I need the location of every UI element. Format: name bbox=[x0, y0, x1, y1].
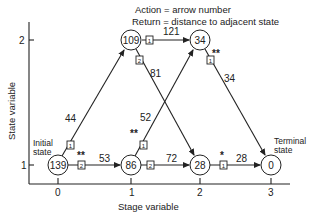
svg-text:109: 109 bbox=[123, 35, 140, 46]
action-box-86-28: 2 bbox=[147, 161, 154, 169]
svg-text:28: 28 bbox=[194, 160, 206, 171]
action-box-86-34: 1 bbox=[140, 141, 147, 149]
node-34: 34 bbox=[190, 30, 210, 50]
edge-34-0 bbox=[205, 49, 265, 155]
distance-34-0: 34 bbox=[224, 73, 236, 84]
x-tick-label-2: 2 bbox=[197, 187, 203, 198]
terminal-state-label-2: state bbox=[274, 145, 293, 155]
svg-text:0: 0 bbox=[268, 160, 274, 171]
optimal-marker-86-34: ** bbox=[130, 128, 138, 139]
distance-139-109: 44 bbox=[65, 113, 77, 124]
y-tick-label-1: 1 bbox=[21, 160, 27, 171]
y-tick-label-2: 2 bbox=[19, 35, 25, 46]
x-tick-label-1: 1 bbox=[129, 187, 135, 198]
distance-86-28: 72 bbox=[166, 153, 178, 164]
x-tick-label-0: 0 bbox=[55, 187, 61, 198]
action-box-28-0: 1 bbox=[220, 161, 227, 169]
edge-139-109 bbox=[62, 50, 124, 156]
node-86: 86 bbox=[121, 155, 141, 175]
initial-state-label-2: state bbox=[33, 147, 52, 157]
svg-text:139: 139 bbox=[50, 160, 67, 171]
distance-109-34: 121 bbox=[163, 26, 180, 37]
svg-text:34: 34 bbox=[194, 35, 206, 46]
x-axis-label: Stage variable bbox=[118, 201, 179, 212]
optimal-marker-34-0: ** bbox=[212, 48, 220, 59]
action-box-139-109: 1 bbox=[67, 141, 74, 149]
edge-86-34 bbox=[135, 50, 193, 156]
action-box-109-34: 1 bbox=[146, 36, 153, 44]
distance-28-0: 28 bbox=[236, 153, 248, 164]
node-109: 109 bbox=[121, 30, 141, 50]
distance-109-28: 81 bbox=[150, 68, 162, 79]
legend-action: Action = arrow number bbox=[135, 4, 231, 15]
optimal-marker-139-86: ** bbox=[77, 150, 85, 161]
action-box-139-86: 2 bbox=[78, 161, 85, 169]
svg-text:86: 86 bbox=[125, 160, 137, 171]
node-0: 0 bbox=[261, 155, 281, 175]
legend-return: Return = distance to adjacent state bbox=[132, 16, 279, 27]
node-139: 139 bbox=[48, 155, 68, 175]
node-28: 28 bbox=[190, 155, 210, 175]
optimal-marker-28-0: * bbox=[220, 150, 224, 161]
distance-139-86: 53 bbox=[99, 153, 111, 164]
action-box-109-28: 2 bbox=[136, 56, 143, 64]
x-tick-label-3: 3 bbox=[268, 187, 274, 198]
dynamic-programming-diagram: Action = arrow number Return = distance … bbox=[0, 0, 315, 213]
y-axis-label: State variable bbox=[6, 82, 17, 140]
distance-86-34: 52 bbox=[140, 112, 152, 123]
